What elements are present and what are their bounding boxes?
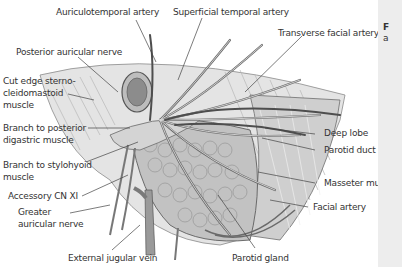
label-superficial-temporal-artery: Superficial temporal artery <box>173 7 289 18</box>
label-cut-edge-scm-1: Cut edge sterno- <box>3 76 75 87</box>
label-branch-stylohyoid-2: muscle <box>3 172 34 183</box>
label-branch-posterior-digastric-1: Branch to posterior <box>3 123 86 134</box>
label-accessory-cn-xi: Accessory CN XI <box>8 191 78 202</box>
caption-text-line-1: F <box>383 22 389 32</box>
label-greater-auricular-nerve-2: auricular nerve <box>18 219 83 230</box>
label-posterior-auricular-nerve: Posterior auricular nerve <box>16 47 122 58</box>
label-parotid-duct: Parotid duct <box>324 145 376 156</box>
label-greater-auricular-nerve-1: Greater <box>18 207 51 218</box>
label-facial-artery: Facial artery <box>313 202 366 213</box>
anatomy-figure: Auriculotemporal artery Superficial temp… <box>0 0 378 267</box>
label-branch-posterior-digastric-2: digastric muscle <box>3 135 74 146</box>
label-cut-edge-scm-2: cleidomastoid <box>3 88 63 99</box>
label-parotid-gland: Parotid gland <box>232 253 289 264</box>
label-external-jugular-vein: External jugular vein <box>68 253 157 264</box>
figure-caption-panel: F a <box>378 0 402 267</box>
label-cut-edge-scm-3: muscle <box>3 100 34 111</box>
label-auriculotemporal-artery: Auriculotemporal artery <box>56 7 159 18</box>
label-branch-stylohyoid-1: Branch to stylohyoid <box>3 160 92 171</box>
label-transverse-facial-artery: Transverse facial artery <box>278 28 379 39</box>
label-deep-lobe: Deep lobe <box>324 128 368 139</box>
caption-text-line-2: a <box>383 33 389 43</box>
